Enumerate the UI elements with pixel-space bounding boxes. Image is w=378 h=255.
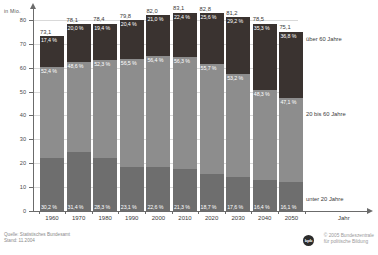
bar-segment-over-60: 21,0 % xyxy=(146,15,170,56)
bar-total-label: 79,8 xyxy=(120,13,144,19)
segment-value-label: 16,4 % xyxy=(254,204,270,210)
segment-value-label: 56,4 % xyxy=(147,57,163,63)
legend-item-20-to-60: 20 bis 60 Jahre xyxy=(306,111,346,117)
x-tick-label-2020: 2020 xyxy=(197,215,227,221)
bar-segment-20-60: 53,2 % xyxy=(226,74,250,177)
bar-2040: 35,3 %48,3 %16,4 % xyxy=(253,24,277,211)
y-tick-mark xyxy=(29,211,33,212)
segment-value-label: 48,3 % xyxy=(254,91,270,97)
y-tick-mark xyxy=(29,139,33,140)
x-tick-label-2010: 2010 xyxy=(170,215,200,221)
bar-total-label: 73,1 xyxy=(40,29,64,35)
y-tick-mark xyxy=(29,115,33,116)
legend-item-over-60: über 60 Jahre xyxy=(306,36,342,42)
x-tick-mark xyxy=(305,211,306,214)
y-tick-mark xyxy=(29,92,33,93)
x-tick-label-1980: 1980 xyxy=(90,215,120,221)
segment-value-label: 20,0 % xyxy=(68,25,84,31)
segment-value-label: 52,4 % xyxy=(41,68,57,74)
segment-value-label: 25,6 % xyxy=(201,14,217,20)
x-axis-title: Jahr xyxy=(338,215,350,221)
y-tick-mark xyxy=(29,187,33,188)
y-tick-label: 0 xyxy=(8,208,26,214)
copyright-line-2: für politische Bildung xyxy=(324,239,374,245)
segment-value-label: 28,3 % xyxy=(94,204,110,210)
bar-total-label: 75,1 xyxy=(279,24,303,30)
bar-segment-under-20: 30,2 % xyxy=(40,158,64,211)
bar-segment-under-20: 21,3 % xyxy=(173,169,197,211)
y-tick-mark xyxy=(29,20,33,21)
segment-value-label: 31,4 % xyxy=(68,204,84,210)
bar-total-label: 81,2 xyxy=(226,10,250,16)
y-axis-unit-label: in Mio. xyxy=(4,8,21,14)
segment-value-label: 53,2 % xyxy=(227,75,243,81)
y-tick-label: 70 xyxy=(8,41,26,47)
bar-1970: 20,0 %48,6 %31,4 % xyxy=(67,24,91,211)
y-tick-label: 80 xyxy=(8,17,26,23)
segment-value-label: 48,6 % xyxy=(68,63,84,69)
segment-value-label: 20,4 % xyxy=(121,21,137,27)
source-note: Quelle: Statistisches Bundesamt Stand: 1… xyxy=(4,232,70,244)
segment-value-label: 36,8 % xyxy=(280,33,296,39)
bar-segment-under-20: 28,3 % xyxy=(93,158,117,211)
segment-value-label: 30,2 % xyxy=(41,204,57,210)
x-axis-arrow xyxy=(367,208,373,214)
bar-1990: 20,4 %56,5 %23,1 % xyxy=(120,20,144,211)
bar-2030: 29,2 %53,2 %17,6 % xyxy=(226,17,250,211)
segment-value-label: 22,4 % xyxy=(174,14,190,20)
bar-total-label: 78,1 xyxy=(67,17,91,23)
x-tick-mark xyxy=(198,211,199,214)
y-tick-mark xyxy=(29,44,33,45)
x-tick-mark xyxy=(278,211,279,214)
bar-segment-over-60: 20,4 % xyxy=(120,20,144,59)
legend-item-under-20: unter 20 Jahre xyxy=(306,196,343,202)
bar-segment-over-60: 25,6 % xyxy=(200,13,224,64)
y-tick-label: 20 xyxy=(8,160,26,166)
x-tick-mark xyxy=(251,211,252,214)
x-tick-label-1960: 1960 xyxy=(37,215,67,221)
y-axis-line xyxy=(33,8,34,212)
copyright-note: © 2005 Bundeszentrale für politische Bil… xyxy=(324,233,374,245)
bar-segment-under-20: 18,7 % xyxy=(200,174,224,211)
y-tick-label: 50 xyxy=(8,89,26,95)
x-tick-label-1990: 1990 xyxy=(117,215,147,221)
bar-segment-under-20: 23,1 % xyxy=(120,167,144,211)
y-tick-label: 60 xyxy=(8,65,26,71)
y-tick-mark xyxy=(29,163,33,164)
bar-segment-20-60: 47,1 % xyxy=(279,98,303,182)
segment-value-label: 55,7 % xyxy=(201,65,217,71)
bar-1960: 17,4 %52,4 %30,2 % xyxy=(40,36,64,211)
bar-segment-20-60: 52,4 % xyxy=(40,67,64,158)
bar-2020: 25,6 %55,7 %18,7 % xyxy=(200,13,224,211)
x-tick-mark xyxy=(225,211,226,214)
bar-segment-under-20: 31,4 % xyxy=(67,152,91,211)
bar-segment-20-60: 48,3 % xyxy=(253,90,277,181)
bar-segment-over-60: 20,0 % xyxy=(67,24,91,61)
x-axis-line xyxy=(33,211,369,212)
population-stacked-bar-chart: in Mio. 01020304050607080 17,4 %52,4 %30… xyxy=(0,0,378,255)
bar-2000: 21,0 %56,4 %22,6 % xyxy=(146,15,170,211)
segment-value-label: 17,6 % xyxy=(227,204,243,210)
segment-value-label: 17,4 % xyxy=(41,37,57,43)
bar-segment-20-60: 55,7 % xyxy=(200,64,224,174)
bar-2010: 22,4 %56,3 %21,3 % xyxy=(173,13,197,211)
x-tick-label-2040: 2040 xyxy=(250,215,280,221)
bar-total-label: 83,1 xyxy=(173,5,197,11)
segment-value-label: 29,2 % xyxy=(227,18,243,24)
x-tick-mark xyxy=(92,211,93,214)
bpb-logo-icon: bpb xyxy=(303,235,314,246)
bar-total-label: 82,8 xyxy=(200,6,224,12)
segment-value-label: 56,5 % xyxy=(121,60,137,66)
bar-total-label: 82,0 xyxy=(146,8,170,14)
segment-value-label: 52,3 % xyxy=(94,61,110,67)
bar-1980: 19,4 %52,3 %28,3 % xyxy=(93,24,117,211)
x-tick-mark xyxy=(145,211,146,214)
segment-value-label: 16,1 % xyxy=(280,204,296,210)
source-line-2: Stand: 11.2004 xyxy=(4,238,70,244)
bar-segment-over-60: 17,4 % xyxy=(40,36,64,66)
y-tick-label: 40 xyxy=(8,112,26,118)
x-tick-label-1970: 1970 xyxy=(64,215,94,221)
segment-value-label: 56,3 % xyxy=(174,58,190,64)
segment-value-label: 21,0 % xyxy=(147,16,163,22)
x-tick-label-2050: 2050 xyxy=(276,215,306,221)
